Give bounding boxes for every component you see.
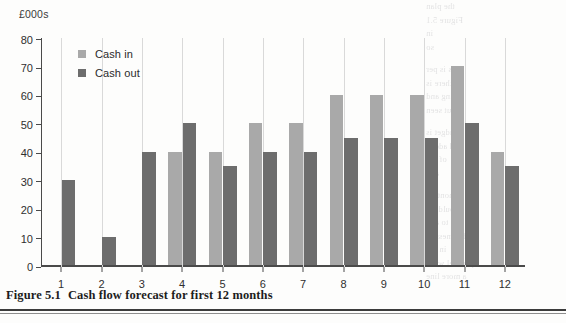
- x-axis-tick: [343, 267, 344, 272]
- x-axis-tick: [383, 267, 384, 272]
- y-axis-tick-label: 10: [21, 233, 33, 245]
- x-axis-tick: [504, 267, 505, 272]
- figure-page: the planFigure 5.1insoas is perthere isg…: [0, 0, 566, 323]
- bar-cash-out: [344, 138, 358, 266]
- y-axis-tick: [36, 238, 41, 239]
- y-axis-tick-label: 70: [21, 62, 33, 74]
- bar-cash-out: [505, 166, 519, 265]
- chart-legend: Cash inCash out: [78, 44, 140, 82]
- x-axis-tick: [182, 267, 183, 272]
- x-axis-tick: [464, 267, 465, 272]
- bleed-line: Figure 5.1: [426, 14, 566, 28]
- bar-cash-out: [425, 138, 439, 266]
- bleed-line: the plan: [426, 0, 566, 14]
- bar-cash-out: [263, 152, 277, 266]
- y-axis-line: [41, 38, 42, 267]
- x-axis-tick-label: 8: [340, 278, 346, 290]
- y-axis-tick-label: 50: [21, 119, 33, 131]
- x-axis-tick: [101, 267, 102, 272]
- x-axis-tick: [222, 267, 223, 272]
- bar-cash-in: [410, 95, 424, 266]
- footer-rule-thick: [0, 309, 566, 311]
- bar-cash-in: [209, 152, 223, 266]
- x-axis-line: [41, 265, 525, 267]
- legend-label: Cash in: [95, 48, 133, 60]
- bar-cash-out: [223, 166, 237, 265]
- y-axis-tick: [36, 68, 41, 69]
- bar-cash-out: [465, 123, 479, 265]
- bar-cash-out: [304, 152, 318, 266]
- bar-cash-in: [168, 152, 182, 266]
- y-axis-unit-label: £000s: [19, 8, 49, 20]
- x-axis-tick: [141, 267, 142, 272]
- bar-cash-out: [62, 180, 76, 265]
- legend-swatch: [78, 69, 86, 77]
- x-axis-tick: [262, 267, 263, 272]
- bar-cash-out: [183, 123, 197, 265]
- footer-rule-thin: [0, 313, 566, 314]
- y-axis-tick-label: 30: [21, 176, 33, 188]
- bar-cash-out: [384, 138, 398, 266]
- x-axis-tick: [303, 267, 304, 272]
- bar-cash-out: [102, 237, 116, 265]
- y-axis-tick-label: 40: [21, 147, 33, 159]
- bar-cash-in: [330, 95, 344, 266]
- y-axis-tick-label: 80: [21, 34, 33, 46]
- x-axis-tick-label: 11: [459, 278, 470, 290]
- y-axis-tick: [36, 124, 41, 125]
- legend-label: Cash out: [95, 67, 140, 79]
- bleed-line: a more line: [426, 270, 566, 284]
- legend-item: Cash out: [78, 63, 140, 82]
- y-axis-tick: [36, 96, 41, 97]
- bar-cash-in: [370, 95, 384, 266]
- bar-cash-in: [289, 123, 303, 265]
- legend-swatch: [78, 50, 86, 58]
- x-axis-tick-label: 12: [499, 278, 511, 290]
- x-axis-tick-label: 7: [300, 278, 306, 290]
- x-axis-tick-label: 10: [418, 278, 430, 290]
- y-axis-tick-label: 60: [21, 90, 33, 102]
- y-axis-tick: [36, 181, 41, 182]
- y-axis-tick: [36, 210, 41, 211]
- bar-cash-out: [142, 152, 156, 266]
- y-axis-tick: [36, 153, 41, 154]
- y-axis-tick: [36, 39, 41, 40]
- y-axis-tick: [36, 267, 41, 268]
- x-axis-tick: [424, 267, 425, 272]
- figure-caption-label: Figure 5.1: [6, 288, 61, 302]
- y-axis-tick-label: 0: [27, 261, 33, 273]
- y-axis-tick-label: 20: [21, 204, 33, 216]
- x-axis-tick-label: 9: [381, 278, 387, 290]
- x-axis-tick: [61, 267, 62, 272]
- bar-cash-in: [451, 66, 465, 265]
- bar-cash-in: [491, 152, 505, 266]
- figure-caption-text: Cash flow forecast for first 12 months: [68, 288, 273, 302]
- bar-cash-in: [249, 123, 263, 265]
- figure-caption: Figure 5.1Cash flow forecast for first 1…: [6, 288, 273, 303]
- legend-item: Cash in: [78, 44, 140, 63]
